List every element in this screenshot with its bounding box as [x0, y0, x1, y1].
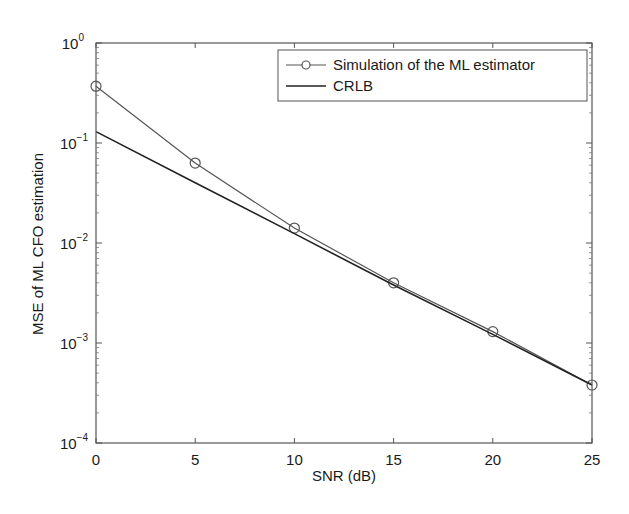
y-tick-exponent: 0: [78, 32, 84, 43]
y-axis-label: MSE of ML CFO estimation: [29, 153, 46, 335]
y-tick-label: 10−3: [60, 332, 89, 352]
series-line-simulation: [96, 86, 592, 385]
y-tick-label: 10−4: [60, 432, 89, 452]
y-tick-label: 100: [62, 32, 85, 52]
y-tick-exponent: −2: [77, 232, 89, 243]
x-tick-label: 10: [286, 451, 303, 468]
axes-box: [96, 43, 592, 443]
legend-entry-label: Simulation of the ML estimator: [333, 56, 535, 73]
x-tick-label: 20: [484, 451, 501, 468]
legend-swatch-marker: [302, 61, 310, 69]
y-tick-base: 10: [60, 135, 77, 152]
y-tick-base: 10: [60, 435, 77, 452]
y-tick-label: 10−2: [60, 232, 89, 252]
y-tick-exponent: −3: [77, 332, 89, 343]
x-tick-label: 15: [385, 451, 402, 468]
y-tick-base: 10: [60, 235, 77, 252]
y-tick-exponent: −4: [77, 432, 89, 443]
y-tick-base: 10: [62, 35, 79, 52]
x-tick-label: 5: [191, 451, 199, 468]
legend-entry-label: CRLB: [333, 77, 373, 94]
x-tick-label: 25: [584, 451, 601, 468]
series-layer: [91, 81, 597, 390]
legend: Simulation of the ML estimatorCRLB: [278, 50, 587, 101]
series-line-crlb: [96, 132, 592, 385]
y-tick-label: 10−1: [60, 132, 89, 152]
y-tick-base: 10: [60, 335, 77, 352]
chart: 051015202510010−110−210−310−4 Simulation…: [0, 0, 629, 514]
y-tick-exponent: −1: [77, 132, 89, 143]
x-tick-label: 0: [92, 451, 100, 468]
x-axis-label: SNR (dB): [312, 467, 376, 484]
